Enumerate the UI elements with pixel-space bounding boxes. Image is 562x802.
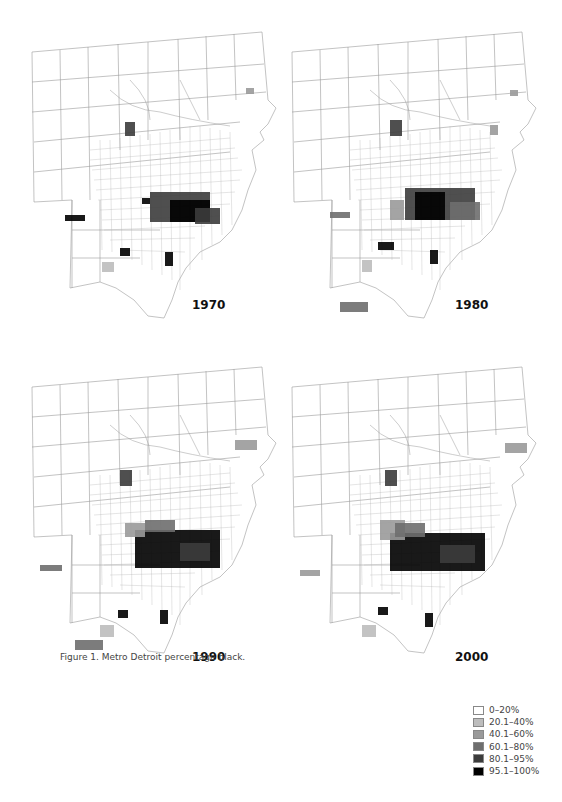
legend-label: 60.1–80% bbox=[489, 742, 534, 752]
legend-label: 20.1–40% bbox=[489, 717, 534, 727]
year-label-2000: 2000 bbox=[455, 650, 488, 664]
legend-swatch bbox=[473, 730, 484, 739]
legend-item: 95.1–100% bbox=[473, 765, 539, 777]
map-1990 bbox=[30, 355, 280, 655]
legend-label: 80.1–95% bbox=[489, 754, 534, 764]
legend-swatch bbox=[473, 767, 484, 776]
legend-item: 40.1–60% bbox=[473, 728, 539, 740]
legend-swatch bbox=[473, 742, 484, 751]
figure-caption: Figure 1. Metro Detroit percentage black… bbox=[60, 652, 245, 662]
legend-swatch bbox=[473, 754, 484, 763]
year-label-1970: 1970 bbox=[192, 298, 225, 312]
year-label-1980: 1980 bbox=[455, 298, 488, 312]
legend-label: 40.1–60% bbox=[489, 729, 534, 739]
legend-item: 20.1–40% bbox=[473, 716, 539, 728]
legend: 0–20% 20.1–40% 40.1–60% 60.1–80% 80.1–95… bbox=[473, 704, 539, 777]
legend-label: 95.1–100% bbox=[489, 766, 539, 776]
map-1970 bbox=[30, 20, 280, 320]
legend-item: 60.1–80% bbox=[473, 741, 539, 753]
legend-swatch bbox=[473, 706, 484, 715]
map-2000 bbox=[290, 355, 540, 655]
legend-swatch bbox=[473, 718, 484, 727]
legend-label: 0–20% bbox=[489, 705, 519, 715]
legend-item: 80.1–95% bbox=[473, 753, 539, 765]
map-1980 bbox=[290, 20, 540, 320]
legend-item: 0–20% bbox=[473, 704, 539, 716]
